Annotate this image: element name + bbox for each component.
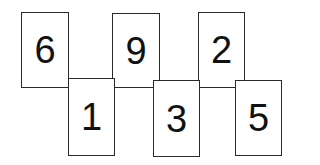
card-2: 2	[198, 12, 245, 88]
card-5: 5	[235, 80, 282, 156]
card-6: 6	[21, 12, 69, 88]
card-5-label: 5	[248, 99, 269, 137]
card-3-label: 3	[166, 100, 187, 138]
card-9-label: 9	[125, 32, 146, 70]
card-6-label: 6	[34, 31, 55, 69]
card-3: 3	[153, 80, 200, 157]
card-1: 1	[68, 78, 115, 156]
card-2-label: 2	[211, 31, 232, 69]
card-1-label: 1	[81, 98, 102, 136]
card-9: 9	[112, 13, 160, 88]
